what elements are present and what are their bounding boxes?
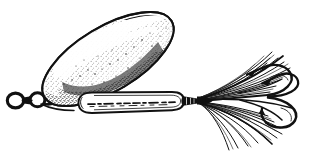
lure-drawing — [0, 0, 311, 160]
lure-illustration: barrel swivel with round wire loop at th… — [0, 0, 311, 160]
lure-body — [79, 92, 185, 113]
